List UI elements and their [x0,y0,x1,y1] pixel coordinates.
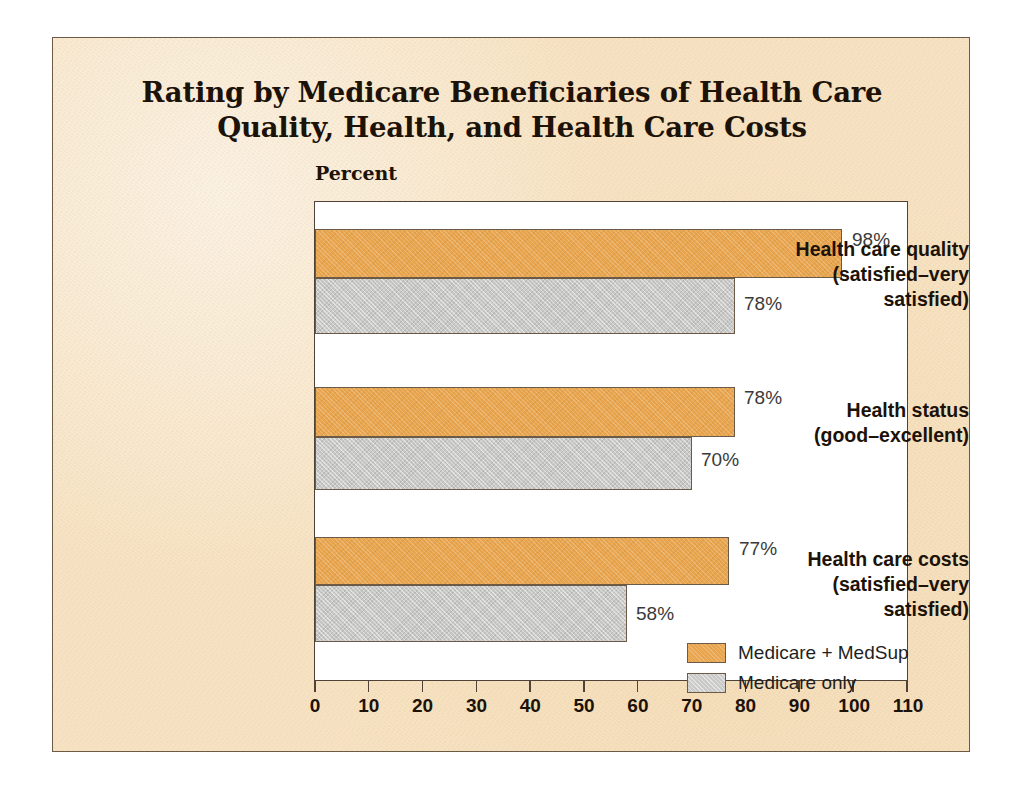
legend-label-medicare-only: Medicare only [738,672,856,694]
tick-mark-0 [314,681,316,692]
value-label-medsup-health-status: 78% [744,387,782,409]
bar-only-health-care-costs [315,585,627,642]
tick-label-30: 30 [466,695,487,717]
tick-label-70: 70 [681,695,702,717]
tick-mark-50 [583,681,585,692]
value-label-only-health-care-costs: 58% [636,603,674,625]
tick-mark-60 [637,681,639,692]
value-label-only-health-care-quality: 78% [744,293,782,315]
legend: Medicare + MedSup Medicare only [687,638,909,698]
tick-mark-40 [529,681,531,692]
tick-label-0: 0 [310,695,321,717]
tick-label-90: 90 [789,695,810,717]
tick-label-80: 80 [735,695,756,717]
tick-mark-20 [422,681,424,692]
tick-mark-30 [476,681,478,692]
tick-label-60: 60 [627,695,648,717]
bar-medsup-health-status [315,387,735,437]
tick-label-20: 20 [412,695,433,717]
bar-only-health-care-quality [315,278,735,334]
tick-mark-10 [368,681,370,692]
legend-item-medicare-medsup: Medicare + MedSup [687,638,909,668]
tick-label-40: 40 [520,695,541,717]
tick-label-50: 50 [574,695,595,717]
tick-label-110: 110 [893,695,924,717]
legend-label-medicare-medsup: Medicare + MedSup [738,642,909,664]
figure-card: Rating by Medicare Beneficiaries of Heal… [52,37,970,752]
tick-label-100: 100 [838,695,870,717]
legend-swatch-icon-medicare-medsup [687,643,726,663]
bar-medsup-health-care-costs [315,537,729,585]
legend-item-medicare-only: Medicare only [687,668,909,698]
chart-title: Rating by Medicare Beneficiaries of Heal… [53,75,971,145]
axis-unit-label: Percent [315,162,397,184]
tick-label-10: 10 [358,695,379,717]
legend-swatch-icon-medicare-only [687,673,726,693]
value-label-medsup-health-care-costs: 77% [739,538,777,560]
bar-only-health-status [315,437,692,490]
value-label-only-health-status: 70% [701,449,739,471]
value-label-medsup-health-care-quality: 98% [852,229,890,251]
